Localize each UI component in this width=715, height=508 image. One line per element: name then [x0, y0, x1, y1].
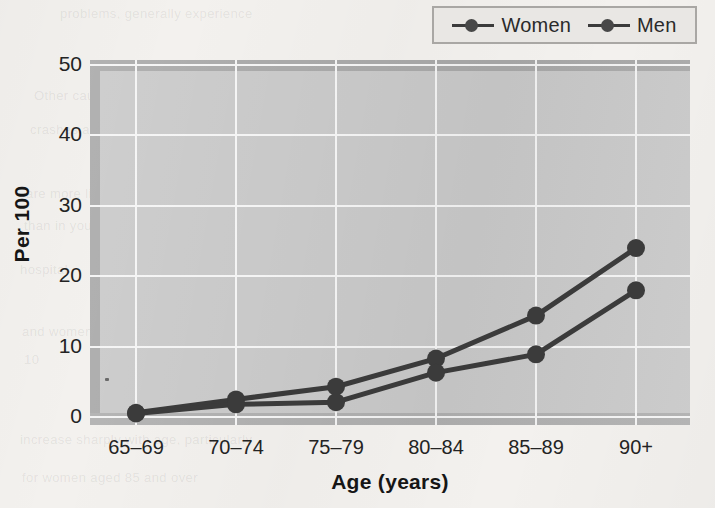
y-tick-label: 0 — [30, 404, 82, 428]
series-plot — [90, 60, 690, 425]
scan-speck — [105, 378, 109, 381]
data-point-women-85–89 — [527, 307, 545, 325]
data-point-women-75–79 — [327, 378, 345, 396]
line-chart: 01020304050 65–6970–7475–7980–8485–8990+… — [0, 0, 715, 508]
data-point-men-85–89 — [527, 345, 545, 363]
y-tick-label: 30 — [30, 193, 82, 217]
x-axis-title: Age (years) — [90, 470, 690, 494]
x-tick-label: 90+ — [571, 436, 701, 459]
y-axis-title: Per 100 — [10, 174, 34, 274]
data-point-women-90+ — [627, 239, 645, 257]
data-point-men-80–84 — [427, 364, 445, 382]
data-point-men-65–69 — [127, 404, 145, 422]
plot-area — [90, 60, 690, 425]
data-point-men-70–74 — [227, 395, 245, 413]
y-tick-label: 50 — [30, 52, 82, 76]
y-tick-label: 40 — [30, 122, 82, 146]
y-tick-label: 20 — [30, 263, 82, 287]
data-point-men-90+ — [627, 281, 645, 299]
data-point-men-75–79 — [327, 393, 345, 411]
y-tick-label: 10 — [30, 334, 82, 358]
series-line-men — [136, 290, 636, 413]
x-axis-ticks: 65–6970–7475–7980–8485–8990+ — [90, 436, 690, 464]
